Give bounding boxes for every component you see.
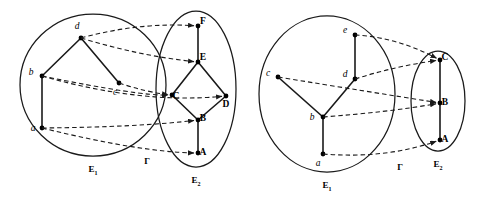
panel-right-target-set-label: E2 <box>433 159 442 171</box>
panel-right-source-set-label: E1 <box>322 180 331 192</box>
panel-left-map-arrow-b-to-D[interactable] <box>42 76 222 98</box>
panel-left-source-set-subscript: 1 <box>95 170 98 176</box>
panel-left-source-set-label: E1 <box>88 164 97 176</box>
panel-left-target-node-D[interactable] <box>224 94 229 99</box>
panel-left-target-node-label-A: A <box>200 147 207 157</box>
panel-right-map-arrow-d-to-C[interactable] <box>355 61 436 79</box>
panel-right-target-set-subscript: 2 <box>440 165 443 171</box>
panel-left-source-edge-d-c <box>81 38 119 83</box>
relation-diagram-svg: abcdE1ABCDEFE2ΓabcdeE1ABCE2Γ <box>0 0 481 201</box>
panel-right: abcdeE1ABCE2Γ <box>259 16 465 192</box>
panel-left-map-arrow-b-to-C[interactable] <box>42 76 168 95</box>
panel-left-source-node-label-d: d <box>75 21 80 31</box>
panel-left-map-arrow-d-to-F[interactable] <box>81 25 194 38</box>
panel-right-target-node-label-B: B <box>442 97 449 107</box>
panel-left-target-set-label: E2 <box>191 175 200 187</box>
panel-left-source-node-label-a: a <box>31 123 36 133</box>
panel-right-target-node-label-A: A <box>442 134 449 144</box>
panel-right-map-arrow-e-to-C[interactable] <box>355 35 436 58</box>
panel-left-map-label-gamma: Γ <box>144 156 150 166</box>
panel-left-target-node-label-F: F <box>200 16 206 26</box>
panel-left-target-edge-D-E <box>198 62 226 96</box>
panel-right-map-arrow-b-to-B[interactable] <box>323 104 436 117</box>
panel-left-target-ellipse <box>156 11 236 167</box>
panel-left-target-node-label-D: D <box>223 99 230 109</box>
panel-left: abcdE1ABCDEFE2Γ <box>20 11 236 187</box>
panel-left-target-node-label-B: B <box>200 113 207 123</box>
panel-right-map-label-gamma: Γ <box>397 162 403 172</box>
panel-left-source-edge-b-d <box>42 38 81 76</box>
figure-canvas: abcdE1ABCDEFE2ΓabcdeE1ABCE2Γ <box>0 0 481 201</box>
panel-right-source-node-label-b: b <box>310 112 315 122</box>
panel-right-source-ellipse <box>259 16 395 172</box>
panel-left-target-node-label-C: C <box>173 91 180 101</box>
panel-right-source-node-label-e: e <box>343 25 347 35</box>
panel-left-map-arrow-a-to-B[interactable] <box>42 120 194 128</box>
panel-right-source-set-subscript: 1 <box>329 186 332 192</box>
panel-right-source-edge-b-d <box>323 79 355 117</box>
panel-right-source-node-label-a: a <box>316 158 321 168</box>
panel-left-target-set-subscript: 2 <box>198 181 201 187</box>
panel-left-map-arrow-c-to-C[interactable] <box>119 83 168 95</box>
panel-right-source-node-label-d: d <box>343 69 348 79</box>
panel-right-source-node-label-c: c <box>266 68 271 78</box>
panel-right-target-ellipse <box>411 51 465 151</box>
panel-right-target-node-label-C: C <box>442 52 449 62</box>
panel-left-target-node-label-E: E <box>200 52 206 62</box>
panel-left-source-node-label-b: b <box>29 67 34 77</box>
